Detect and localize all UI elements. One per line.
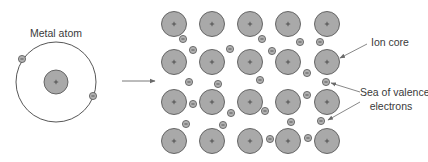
- ion-core: [162, 50, 187, 75]
- ion-core: [276, 90, 301, 115]
- valence-electron: [258, 35, 265, 42]
- sea-leader-upper: [331, 83, 360, 92]
- valence-electron: [316, 38, 323, 45]
- ion-core: [315, 50, 340, 75]
- valence-electron: [227, 109, 234, 116]
- sea-of-valence-label-line2: electrons: [360, 101, 422, 112]
- valence-electron: [185, 78, 192, 85]
- atom-nucleus: [44, 70, 68, 94]
- ion-core: [200, 90, 225, 115]
- valence-electron: [266, 135, 273, 142]
- valence-electron: [322, 78, 329, 85]
- sea-of-valence-label-line1: Sea of valence: [360, 87, 422, 98]
- ion-core: [276, 12, 301, 37]
- valence-electron: [256, 76, 263, 83]
- valence-electron: [261, 107, 268, 114]
- valence-electron: [287, 118, 294, 125]
- ion-core: [315, 90, 340, 115]
- valence-electron: [226, 45, 233, 52]
- orbit-electron: [18, 55, 25, 62]
- ion-core: [200, 12, 225, 37]
- ion-core: [238, 50, 263, 75]
- ion-core: [200, 129, 225, 154]
- ion-core: [200, 50, 225, 75]
- metallic-bonding-diagram: Metal atom Ion core Sea of valence elect…: [0, 0, 428, 162]
- ion-core: [162, 12, 187, 37]
- metal-atom: [16, 42, 97, 122]
- ion-core: [238, 129, 263, 154]
- valence-electron: [303, 69, 310, 76]
- diagram-canvas: [0, 0, 428, 162]
- valence-electron: [179, 35, 186, 42]
- orbit-electron: [89, 92, 96, 99]
- ion-core-label: Ion core: [371, 37, 409, 48]
- ion-core: [238, 12, 263, 37]
- valence-electron: [268, 47, 275, 54]
- metal-atom-label: Metal atom: [26, 28, 86, 39]
- ion-core: [238, 90, 263, 115]
- valence-electron: [317, 117, 324, 124]
- valence-electron: [214, 80, 221, 87]
- valence-electron: [182, 120, 189, 127]
- valence-electron: [189, 100, 196, 107]
- valence-electron: [189, 46, 196, 53]
- ion-core: [162, 129, 187, 154]
- ion-core: [276, 50, 301, 75]
- valence-electron: [296, 38, 303, 45]
- valence-electron: [219, 121, 226, 128]
- ion-core: [315, 129, 340, 154]
- ion-core-leader: [340, 44, 367, 58]
- valence-electron: [304, 134, 311, 141]
- ion-core: [276, 129, 301, 154]
- valence-electron: [303, 91, 310, 98]
- ion-core: [315, 12, 340, 37]
- ion-core: [162, 90, 187, 115]
